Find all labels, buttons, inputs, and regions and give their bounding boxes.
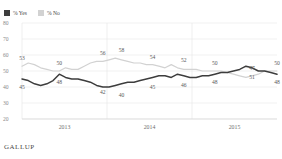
point-label: 50 (274, 60, 280, 66)
plot-area: 80706050403020 201320142015 454842404546… (0, 20, 282, 138)
point-label: 46 (181, 82, 187, 88)
gallup-footer: GALLUP (4, 143, 35, 151)
point-label: 51 (249, 74, 255, 80)
point-label: 48 (57, 79, 63, 85)
point-label: 53 (19, 55, 25, 61)
point-label: 54 (150, 54, 156, 60)
point-label: 50 (57, 60, 63, 66)
y-tick-60: 60 (3, 52, 20, 58)
point-label: 48 (274, 79, 280, 85)
legend-label-no: % No (47, 10, 60, 16)
chart-legend: % Yes % No (4, 7, 60, 18)
point-label: 56 (100, 50, 106, 56)
x-tick-2013: 2013 (59, 124, 71, 130)
plot-svg (0, 20, 282, 138)
point-label: 40 (119, 92, 125, 98)
gallup-line-chart: % Yes % No 80706050403020 201320142015 4… (0, 0, 282, 159)
point-label: 47 (249, 65, 255, 71)
legend-swatch-no-icon (38, 10, 44, 16)
y-tick-40: 40 (3, 84, 20, 90)
y-tick-80: 80 (3, 20, 20, 26)
y-tick-50: 50 (3, 68, 20, 74)
point-label: 58 (119, 47, 125, 53)
point-label: 48 (212, 79, 218, 85)
chart-title-clipped (0, 0, 282, 7)
x-tick-2014: 2014 (144, 124, 156, 130)
legend-swatch-yes-icon (4, 10, 10, 16)
point-label: 52 (181, 57, 187, 63)
point-label: 50 (212, 60, 218, 66)
point-label: 45 (150, 84, 156, 90)
point-label: 42 (100, 89, 106, 95)
legend-label-yes: % Yes (13, 10, 27, 16)
legend-item-no[interactable]: % No (38, 10, 60, 16)
legend-item-yes[interactable]: % Yes (4, 10, 27, 16)
y-tick-30: 30 (3, 100, 20, 106)
x-tick-2015: 2015 (229, 124, 241, 130)
point-label: 45 (19, 84, 25, 90)
y-tick-20: 20 (3, 116, 20, 122)
y-tick-70: 70 (3, 36, 20, 42)
